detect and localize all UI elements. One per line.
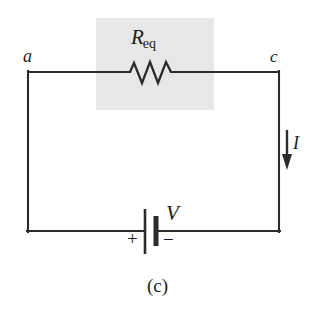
figure-caption: (c) <box>0 275 315 297</box>
resistor-label-subscript: eq <box>143 36 156 51</box>
circuit-diagram-svg <box>0 0 315 313</box>
resistor-label-main: R <box>131 25 144 49</box>
node-label-c: c <box>270 48 278 65</box>
voltage-label: V <box>166 203 179 224</box>
down-arrow-icon <box>282 154 292 170</box>
resistor-label: Req <box>131 27 157 48</box>
node-label-a: a <box>23 47 32 65</box>
battery-negative-sign: − <box>163 230 174 249</box>
battery-negative-plate <box>154 216 159 246</box>
circuit-figure: a c Req I V + − (c) <box>0 0 315 313</box>
battery-positive-sign: + <box>127 229 138 248</box>
current-label: I <box>293 134 299 152</box>
